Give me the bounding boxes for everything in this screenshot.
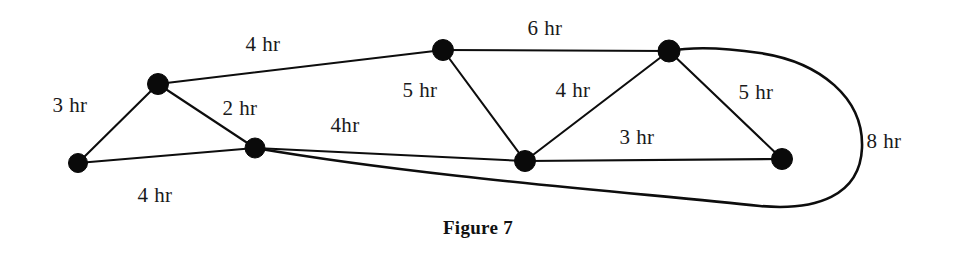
edge-label-F-G: 5 hr	[739, 82, 774, 103]
figure-container: 3 hr 4 hr 2 hr 4 hr 4hr 5 hr 6 hr 4 hr 3…	[0, 0, 953, 256]
graph-node-E	[515, 151, 536, 172]
edges-group	[78, 48, 862, 207]
edge-label-E-F: 4 hr	[556, 80, 591, 101]
edge-label-C-E: 4hr	[330, 115, 359, 136]
edge-label-B-D: 4 hr	[246, 34, 281, 55]
nodes-group	[69, 40, 793, 173]
figure-caption: Figure 7	[443, 217, 513, 239]
edge-A-B-3hr	[78, 84, 158, 163]
graph-node-D	[433, 40, 454, 61]
edge-F-G-5hr	[669, 51, 782, 159]
edge-label-C-F: 8 hr	[867, 131, 902, 152]
edge-label-B-C: 2 hr	[223, 98, 258, 119]
edge-label-A-C: 4 hr	[138, 185, 173, 206]
edge-D-E-5hr	[443, 50, 525, 161]
graph-node-A	[69, 154, 88, 173]
graph-node-F	[658, 40, 680, 62]
graph-node-B	[148, 74, 169, 95]
edge-label-A-B: 3 hr	[53, 95, 88, 116]
edge-E-G-3hr	[525, 159, 782, 161]
edge-label-D-E: 5 hr	[403, 80, 438, 101]
edge-label-D-F: 6 hr	[528, 18, 563, 39]
graph-node-G	[772, 149, 793, 170]
edge-B-D-4hr	[158, 50, 443, 84]
graph-node-C	[245, 138, 265, 158]
edge-D-F-6hr	[443, 50, 669, 51]
edge-A-C-4hr	[78, 148, 255, 163]
edge-label-E-G: 3 hr	[620, 127, 655, 148]
